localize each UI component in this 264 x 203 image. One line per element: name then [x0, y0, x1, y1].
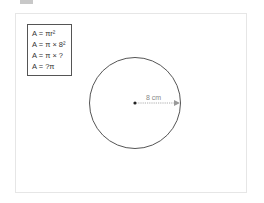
radius-label: 8 cm	[146, 94, 161, 101]
arrow-head-icon	[174, 100, 180, 106]
circle-diagram	[0, 0, 264, 203]
